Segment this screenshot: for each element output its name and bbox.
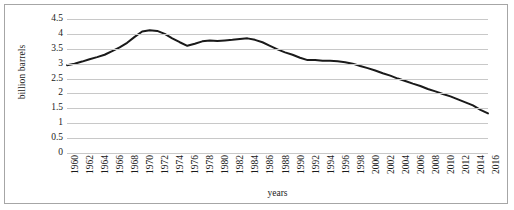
- y-axis-tick-label: 0: [33, 148, 63, 158]
- gridline: [67, 123, 488, 124]
- x-axis-tick-label: 1970: [146, 155, 156, 174]
- y-axis-tick-label: 0.5: [33, 133, 63, 143]
- x-axis-tick-label: 2008: [432, 155, 442, 174]
- gridline: [67, 34, 488, 35]
- gridline: [67, 153, 488, 154]
- x-axis-tick-label: 1960: [71, 155, 81, 174]
- x-axis-tick-label: 2002: [387, 155, 397, 174]
- x-axis-tick-label: 2016: [492, 155, 502, 174]
- x-axis-tick-label: 1980: [221, 155, 231, 174]
- chart-container: billion barrels 00.511.522.533.544.5 196…: [4, 4, 508, 204]
- y-axis-tick-label: 3.5: [33, 44, 63, 54]
- line-series-oil-discoveries: [67, 19, 488, 153]
- y-axis-tick-labels: 00.511.522.533.544.5: [33, 5, 63, 203]
- x-axis-tick-label: 1988: [282, 155, 292, 174]
- x-axis-title: years: [67, 188, 488, 198]
- x-axis-tick-label: 1968: [131, 155, 141, 174]
- x-axis-tick-label: 2004: [402, 155, 412, 174]
- x-axis-tick-label: 2000: [372, 155, 382, 174]
- y-axis-tick-label: 1.5: [33, 104, 63, 114]
- gridline: [67, 138, 488, 139]
- y-axis-tick-label: 4: [33, 29, 63, 39]
- x-axis-tick-label: 1992: [312, 155, 322, 174]
- gridline: [67, 108, 488, 109]
- x-axis-tick-label: 1984: [251, 155, 261, 174]
- x-axis-tick-label: 2006: [417, 155, 427, 174]
- y-axis-tick-label: 2: [33, 89, 63, 99]
- y-axis-tick-label: 2.5: [33, 74, 63, 84]
- x-axis-tick-label: 2012: [462, 155, 472, 174]
- x-axis-tick-label: 1998: [357, 155, 367, 174]
- x-axis-tick-label: 1996: [342, 155, 352, 174]
- chart-plot-wrapper: billion barrels 00.511.522.533.544.5 196…: [5, 5, 507, 203]
- x-axis-tick-label: 1976: [191, 155, 201, 174]
- gridline: [67, 19, 488, 20]
- x-axis-tick-label: 1974: [176, 155, 186, 174]
- y-axis-title: billion barrels: [17, 17, 27, 127]
- y-axis-tick-label: 1: [33, 118, 63, 128]
- x-axis-tick-label: 1972: [161, 155, 171, 174]
- x-axis-tick-label: 1990: [297, 155, 307, 174]
- x-axis-tick-label: 1978: [206, 155, 216, 174]
- gridline: [67, 49, 488, 50]
- x-axis-tick-label: 1962: [86, 155, 96, 174]
- x-axis-tick-label: 1966: [116, 155, 126, 174]
- gridline: [67, 64, 488, 65]
- x-axis-tick-label: 1982: [236, 155, 246, 174]
- gridline: [67, 93, 488, 94]
- gridline: [67, 79, 488, 80]
- y-axis-tick-label: 3: [33, 59, 63, 69]
- y-axis-tick-label: 4.5: [33, 14, 63, 24]
- plot-area: [67, 19, 488, 153]
- x-axis-tick-label: 1994: [327, 155, 337, 174]
- x-axis-tick-label: 2014: [477, 155, 487, 174]
- x-axis-tick-label: 2010: [447, 155, 457, 174]
- x-axis-tick-label: 1964: [101, 155, 111, 174]
- x-axis-tick-label: 1986: [266, 155, 276, 174]
- x-axis-tick-labels: 1960196219641966196819701972197419761978…: [67, 155, 488, 191]
